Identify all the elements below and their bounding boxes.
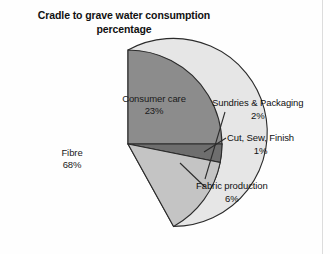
pie-callout-fabric-production-value: 6% [196, 193, 268, 206]
pie-label-fibre: Fibre 68% [44, 147, 100, 171]
pie-chart-canvas [0, 0, 330, 254]
pie-callout-sundries-packaging-name: Sundries & Packaging [212, 97, 303, 108]
pie-callout-cut-sew-finish-name: Cut, Sew, Finish [227, 132, 294, 143]
pie-label-fibre-value: 68% [63, 159, 82, 170]
pie-callout-fabric-production-name: Fabric production [196, 180, 268, 191]
pie-callout-sundries-packaging: Sundries & Packaging 2% [212, 97, 303, 122]
pie-callout-fabric-production: Fabric production 6% [196, 180, 268, 205]
page-border-line [322, 0, 323, 254]
pie-callout-sundries-packaging-value: 2% [212, 110, 303, 123]
pie-callout-cut-sew-finish: Cut, Sew, Finish 1% [227, 132, 294, 157]
pie-label-consumer-care-value: 23% [145, 105, 164, 116]
pie-label-fibre-name: Fibre [61, 147, 82, 158]
pie-callout-cut-sew-finish-value: 1% [227, 145, 294, 158]
pie-label-consumer-care-name: Consumer care [122, 93, 186, 104]
pie-label-consumer-care: Consumer care 23% [112, 93, 196, 117]
chart-figure: Cradle to grave water consumption percen… [0, 0, 330, 254]
